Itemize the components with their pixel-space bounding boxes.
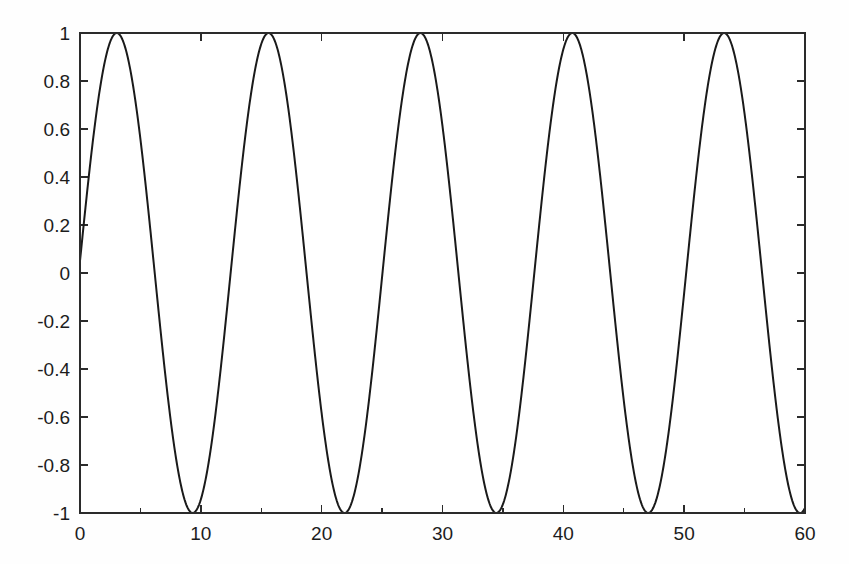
y-tick-label: 0.6 bbox=[44, 119, 70, 140]
y-tick-label: 0.4 bbox=[44, 167, 71, 188]
y-tick-label: 0 bbox=[59, 263, 70, 284]
y-tick-label: -1 bbox=[53, 503, 70, 524]
y-tick-label: 1 bbox=[59, 23, 70, 44]
y-tick-label: 0.8 bbox=[44, 71, 70, 92]
figure-container: 0102030405060 -1-0.8-0.6-0.4-0.200.20.40… bbox=[0, 0, 849, 564]
x-tick-label: 60 bbox=[794, 523, 815, 544]
y-tick-label: -0.4 bbox=[37, 359, 70, 380]
sine-wave-chart: 0102030405060 -1-0.8-0.6-0.4-0.200.20.40… bbox=[0, 0, 849, 564]
plot-area-background bbox=[80, 33, 805, 513]
y-tick-label: -0.8 bbox=[37, 455, 70, 476]
x-tick-label: 50 bbox=[674, 523, 695, 544]
x-tick-label: 10 bbox=[190, 523, 211, 544]
y-tick-label: -0.6 bbox=[37, 407, 70, 428]
x-tick-label: 20 bbox=[311, 523, 332, 544]
x-tick-label: 0 bbox=[75, 523, 86, 544]
y-tick-label: 0.2 bbox=[44, 215, 70, 236]
x-tick-label: 40 bbox=[553, 523, 574, 544]
x-tick-label: 30 bbox=[432, 523, 453, 544]
y-tick-label: -0.2 bbox=[37, 311, 70, 332]
